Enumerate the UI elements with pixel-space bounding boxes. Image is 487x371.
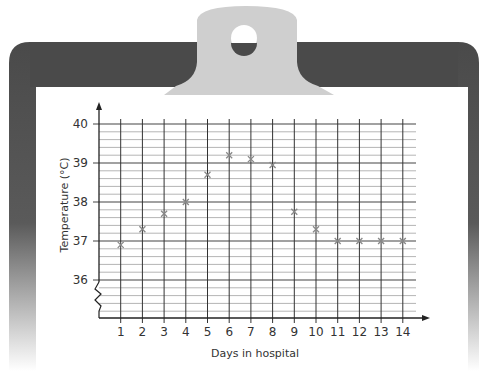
clipboard-chart-scene: 36373839401234567891011121314Days in hos… xyxy=(0,0,487,371)
y-tick-label: 40 xyxy=(73,117,88,131)
x-tick-label: 2 xyxy=(139,325,147,339)
x-tick-label: 4 xyxy=(182,325,190,339)
x-tick-label: 7 xyxy=(247,325,255,339)
y-tick-label: 38 xyxy=(73,195,88,209)
x-tick-label: 10 xyxy=(308,325,323,339)
y-tick-label: 37 xyxy=(73,234,88,248)
x-tick-label: 12 xyxy=(352,325,367,339)
x-axis-title: Days in hospital xyxy=(211,347,299,360)
x-tick-label: 1 xyxy=(117,325,125,339)
x-tick-label: 13 xyxy=(373,325,388,339)
x-tick-label: 11 xyxy=(330,325,345,339)
x-tick-label: 14 xyxy=(395,325,410,339)
x-tick-label: 8 xyxy=(269,325,277,339)
x-tick-label: 6 xyxy=(225,325,233,339)
x-tick-label: 9 xyxy=(290,325,298,339)
x-tick-label: 5 xyxy=(204,325,212,339)
y-axis-title: Temperature (°C) xyxy=(58,158,71,254)
x-tick-label: 3 xyxy=(160,325,168,339)
y-tick-label: 36 xyxy=(73,273,88,287)
y-tick-label: 39 xyxy=(73,156,88,170)
